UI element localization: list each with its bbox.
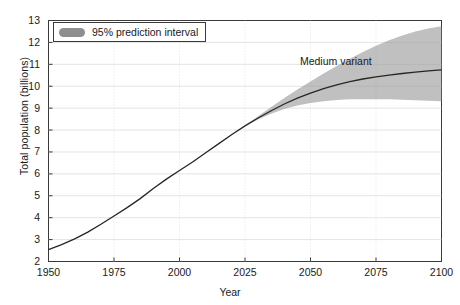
legend-swatch-icon xyxy=(59,28,85,37)
x-tick-label: 1975 xyxy=(84,266,144,278)
x-tick-label: 2075 xyxy=(346,266,406,278)
prediction-interval-band xyxy=(245,26,442,126)
x-axis-title: Year xyxy=(0,286,460,298)
y-axis-title: Total population (billions) xyxy=(18,6,30,226)
x-tick-label: 2025 xyxy=(215,266,275,278)
population-projection-chart: 2345678910111213 19501975200020252050207… xyxy=(0,0,460,305)
x-tick-label: 1950 xyxy=(19,266,79,278)
x-tick-label: 2100 xyxy=(412,266,460,278)
legend: 95% prediction interval xyxy=(53,22,206,42)
y-tick-label: 2 xyxy=(10,256,40,266)
x-tick-label: 2000 xyxy=(150,266,210,278)
y-tick-label: 3 xyxy=(10,234,40,244)
medium-variant-annotation: Medium variant xyxy=(300,55,372,67)
x-tick-label: 2050 xyxy=(281,266,341,278)
chart-canvas xyxy=(0,0,460,305)
legend-label: 95% prediction interval xyxy=(92,26,198,38)
